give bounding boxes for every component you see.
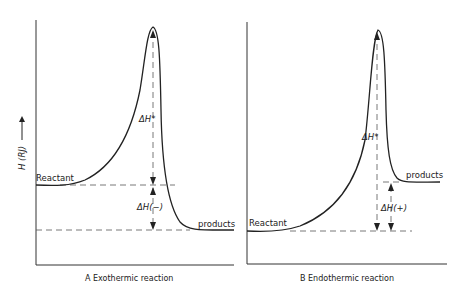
caption-a: A Exothermic reaction: [85, 274, 173, 283]
panel-endothermic: Reactant products ΔH* ΔH(+) B Endothermi…: [247, 22, 447, 283]
panel-exothermic: H (RJ) Reactant products ΔH* ΔH(−) A Exo…: [17, 20, 236, 283]
enthalpy-arrow-down-icon-b: [388, 223, 394, 231]
y-axis-arrow-icon: [19, 116, 25, 122]
activation-arrow-up-icon-a: [150, 30, 156, 38]
reactant-label-a: Reactant: [36, 173, 75, 183]
energy-curve-a: [36, 27, 234, 230]
y-axis-label-group: H (RJ): [17, 116, 27, 170]
products-label-a: products: [198, 219, 236, 229]
energy-profile-diagram: H (RJ) Reactant products ΔH* ΔH(−) A Exo…: [0, 0, 465, 290]
caption-b: B Endothermic reaction: [300, 274, 394, 283]
enthalpy-arrow-up-icon-b: [388, 183, 394, 191]
activation-label-a: ΔH*: [138, 114, 155, 124]
enthalpy-arrow-down-icon-a: [150, 222, 156, 230]
enthalpy-label-b: ΔH(+): [380, 203, 407, 213]
reactant-label-b: Reactant: [249, 218, 288, 228]
products-label-b: products: [406, 170, 444, 180]
enthalpy-arrow-up-icon-a: [150, 187, 156, 195]
activation-arrow-down-icon-a: [150, 177, 156, 185]
activation-arrow-down-icon-b: [374, 223, 380, 231]
enthalpy-label-a: ΔH(−): [136, 202, 163, 212]
activation-label-b: ΔH*: [361, 132, 378, 142]
y-axis-label: H (RJ): [17, 146, 27, 170]
energy-curve-b: [247, 30, 440, 231]
activation-arrow-up-icon-b: [374, 32, 380, 40]
